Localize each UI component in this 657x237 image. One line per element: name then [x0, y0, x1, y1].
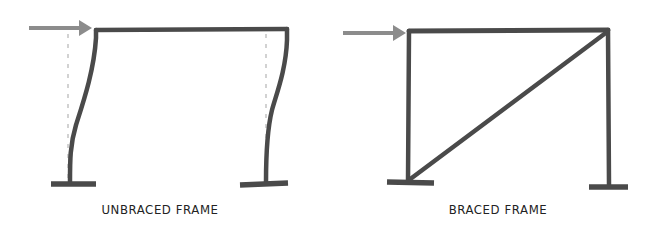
braced-lateral-load-arrow-icon — [343, 25, 406, 41]
unbraced-lateral-load-arrow-icon — [29, 20, 92, 36]
unbraced-frame-label: UNBRACED FRAME — [101, 202, 218, 217]
braced-frame-panel: BRACED FRAME — [343, 25, 628, 217]
braced-diagonal-brace — [409, 32, 607, 180]
braced-top-beam — [409, 30, 608, 31]
braced-left-column — [408, 31, 409, 181]
unbraced-top-beam — [96, 29, 287, 30]
unbraced-right-column — [266, 29, 287, 182]
braced-left-base-support — [387, 182, 434, 183]
braced-frame-label: BRACED FRAME — [449, 202, 548, 217]
braced-right-column — [608, 30, 609, 185]
unbraced-right-base-support — [240, 183, 288, 185]
frame-comparison-diagram: UNBRACED FRAME BRACED FRAME — [0, 0, 657, 237]
unbraced-left-column — [70, 30, 96, 182]
unbraced-frame-panel: UNBRACED FRAME — [29, 20, 288, 217]
